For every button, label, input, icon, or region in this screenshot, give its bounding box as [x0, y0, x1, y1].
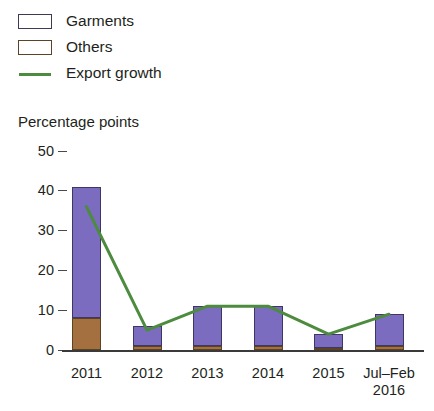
bar-segment-garments [254, 306, 283, 346]
bar-2015 [314, 334, 343, 350]
y-tick-mark-50 [58, 151, 67, 152]
bar-2013 [193, 306, 222, 350]
x-tick-label-jul-feb-2016: Jul–Feb 2016 [349, 365, 429, 399]
x-tick-line1: 2014 [252, 365, 284, 381]
chart-figure: Garments Others Export growth Percentage… [0, 0, 434, 411]
bar-segment-garments [375, 314, 404, 346]
y-tick-mark-20 [58, 270, 67, 271]
bar-segment-others [375, 346, 404, 350]
y-tick-label-0: 0 [18, 342, 54, 358]
x-tick-line1: 2015 [312, 365, 344, 381]
bar-jul-feb-2016 [375, 314, 404, 350]
y-tick-label-40: 40 [18, 182, 54, 198]
bar-2011 [72, 187, 101, 350]
bar-segment-garments [72, 187, 101, 318]
y-tick-mark-40 [58, 190, 67, 191]
y-tick-label-50: 50 [18, 143, 54, 159]
y-tick-label-10: 10 [18, 302, 54, 318]
x-tick-line1: 2013 [191, 365, 223, 381]
y-tick-label-30: 30 [18, 222, 54, 238]
bar-segment-others [72, 318, 101, 350]
x-tick-line1: 2012 [131, 365, 163, 381]
bar-segment-garments [133, 326, 162, 346]
x-tick-line1: Jul–Feb [363, 365, 415, 381]
bar-2014 [254, 306, 283, 350]
bar-segment-garments [193, 306, 222, 346]
bar-2012 [133, 326, 162, 350]
bar-segment-others [133, 346, 162, 350]
plot-area: 50 40 30 20 10 0 [0, 0, 434, 411]
bar-segment-others [193, 346, 222, 350]
x-tick-line1: 2011 [71, 365, 102, 381]
y-tick-mark-30 [58, 230, 67, 231]
bar-segment-garments [314, 334, 343, 348]
x-tick-line2: 2016 [349, 382, 429, 399]
bar-segment-others [254, 346, 283, 350]
y-tick-mark-10 [58, 310, 67, 311]
y-tick-label-20: 20 [18, 262, 54, 278]
bar-segment-others [314, 348, 343, 350]
x-axis-line [62, 350, 424, 352]
